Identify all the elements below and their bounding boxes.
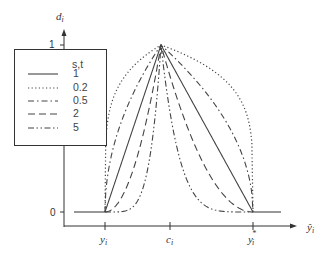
chart: di 1 0 ŷi yi ci y*i s,t 10.20.525: [0, 0, 328, 259]
y-tick-label-one: 1: [49, 39, 55, 50]
curves-group: [105, 45, 253, 212]
legend-label-0-5: 0.5: [73, 94, 88, 106]
y-axis-label: di: [56, 10, 64, 24]
curve-2: [105, 45, 253, 212]
legend: s,t 10.20.525: [15, 50, 107, 146]
x-tick-label-y-high: y*i: [247, 229, 256, 247]
legend-label-1: 1: [73, 67, 79, 79]
x-axis-label: ŷi: [306, 221, 314, 235]
x-tick-label-c: ci: [166, 233, 173, 247]
legend-label-2: 2: [73, 107, 79, 119]
legend-box: [15, 50, 107, 146]
y-axis-arrow-icon: [62, 29, 67, 36]
x-tick-label-y-low: yi: [99, 233, 107, 247]
y-tick-label-zero: 0: [50, 207, 56, 218]
legend-label-0-2: 0.2: [73, 81, 88, 93]
x-axis-arrow-icon: [290, 224, 297, 229]
legend-label-5: 5: [73, 121, 79, 133]
